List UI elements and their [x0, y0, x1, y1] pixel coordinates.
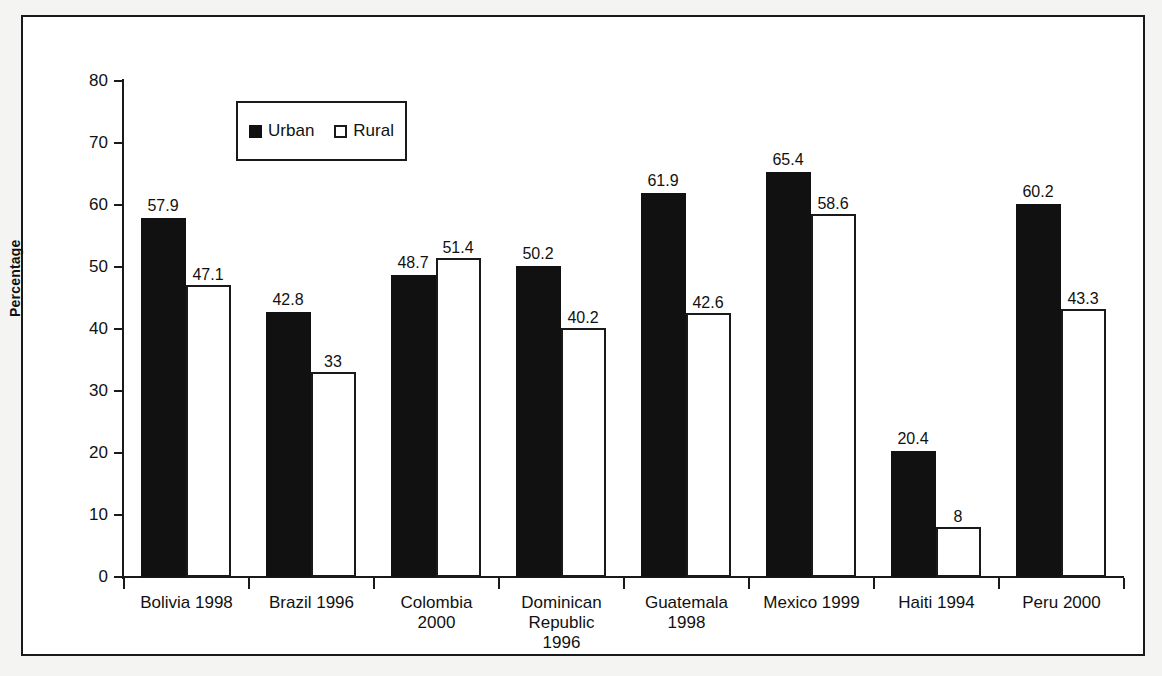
bar-value-label: 48.7	[397, 255, 428, 271]
bar-value-label: 58.6	[817, 196, 848, 212]
y-tick-80	[114, 80, 123, 82]
bar-value-label: 20.4	[897, 431, 928, 447]
chart-frame: Percentage 01020304050607080 57.947.142.…	[21, 15, 1145, 656]
y-tick-20	[114, 452, 123, 454]
legend-entry-rural: Rural	[334, 121, 394, 141]
bar-urban: 65.4	[766, 172, 811, 577]
category-label: Bolivia 1998	[124, 593, 249, 613]
y-tick-0	[114, 576, 123, 578]
bar-rural: 43.3	[1061, 309, 1106, 577]
category-label-line: 1998	[624, 613, 749, 633]
category-label-line: Colombia	[374, 593, 499, 613]
chart-page: Percentage 01020304050607080 57.947.142.…	[0, 0, 1162, 676]
category-label-line: Guatemala	[624, 593, 749, 613]
category-label: DominicanRepublic1996	[499, 593, 624, 653]
bar-rural: 8	[936, 527, 981, 577]
bar-value-label: 50.2	[522, 246, 553, 262]
y-tick-label-50: 50	[63, 257, 108, 277]
bar-value-label: 40.2	[567, 310, 598, 326]
bar-value-label: 43.3	[1067, 291, 1098, 307]
bar-rural: 58.6	[811, 214, 856, 577]
category-label-line: Republic	[499, 613, 624, 633]
category-label: Mexico 1999	[749, 593, 874, 613]
bar-group: 50.240.2	[516, 81, 606, 577]
bar-value-label: 51.4	[442, 240, 473, 256]
x-tick	[498, 578, 500, 589]
x-tick	[623, 578, 625, 589]
bar-rural: 42.6	[686, 313, 731, 577]
bar-rural: 33	[311, 372, 356, 577]
bar-urban: 50.2	[516, 266, 561, 577]
category-label-line: Bolivia 1998	[124, 593, 249, 613]
legend-label-rural: Rural	[353, 121, 394, 141]
bar-urban: 48.7	[391, 275, 436, 577]
bar-rural: 47.1	[186, 285, 231, 577]
bar-value-label: 47.1	[192, 267, 223, 283]
legend-swatch-rural-icon	[334, 125, 347, 138]
bar-value-label: 61.9	[647, 173, 678, 189]
category-label: Colombia2000	[374, 593, 499, 633]
y-tick-label-20: 20	[63, 443, 108, 463]
category-label-line: 1996	[499, 633, 624, 653]
category-label-line: Brazil 1996	[249, 593, 374, 613]
chart-legend: Urban Rural	[236, 101, 407, 161]
legend-entry-urban: Urban	[249, 121, 314, 141]
x-tick	[123, 578, 125, 589]
legend-label-urban: Urban	[268, 121, 314, 141]
bar-value-label: 42.8	[272, 292, 303, 308]
bar-value-label: 33	[324, 354, 342, 370]
category-label-line: Dominican	[499, 593, 624, 613]
x-tick	[748, 578, 750, 589]
x-tick	[248, 578, 250, 589]
legend-swatch-urban-icon	[249, 125, 262, 138]
y-tick-label-0: 0	[63, 567, 108, 587]
bar-value-label: 57.9	[147, 198, 178, 214]
category-label: Haiti 1994	[874, 593, 999, 613]
x-tick	[373, 578, 375, 589]
y-tick-label-60: 60	[63, 195, 108, 215]
category-label-line: 2000	[374, 613, 499, 633]
bar-rural: 40.2	[561, 328, 606, 577]
category-label: Peru 2000	[999, 593, 1124, 613]
bar-group: 60.243.3	[1016, 81, 1106, 577]
y-tick-60	[114, 204, 123, 206]
y-tick-70	[114, 142, 123, 144]
category-label-line: Mexico 1999	[749, 593, 874, 613]
bar-value-label: 65.4	[772, 152, 803, 168]
y-axis-title: Percentage	[7, 240, 23, 317]
bar-group: 20.48	[891, 81, 981, 577]
y-tick-30	[114, 390, 123, 392]
bar-urban: 20.4	[891, 451, 936, 577]
bar-urban: 57.9	[141, 218, 186, 577]
category-label: Guatemala1998	[624, 593, 749, 633]
bar-urban: 61.9	[641, 193, 686, 577]
x-tick	[1123, 578, 1125, 589]
y-tick-label-10: 10	[63, 505, 108, 525]
bar-value-label: 60.2	[1022, 184, 1053, 200]
x-tick	[873, 578, 875, 589]
bar-rural: 51.4	[436, 258, 481, 577]
bar-group: 57.947.1	[141, 81, 231, 577]
y-tick-label-40: 40	[63, 319, 108, 339]
y-tick-label-30: 30	[63, 381, 108, 401]
bar-value-label: 8	[954, 509, 963, 525]
bar-urban: 60.2	[1016, 204, 1061, 577]
y-tick-label-80: 80	[63, 71, 108, 91]
category-label-line: Haiti 1994	[874, 593, 999, 613]
y-tick-10	[114, 514, 123, 516]
x-tick	[998, 578, 1000, 589]
bar-group: 65.458.6	[766, 81, 856, 577]
y-tick-label-70: 70	[63, 133, 108, 153]
y-tick-50	[114, 266, 123, 268]
y-tick-40	[114, 328, 123, 330]
bar-value-label: 42.6	[692, 295, 723, 311]
category-label: Brazil 1996	[249, 593, 374, 613]
bar-urban: 42.8	[266, 312, 311, 577]
bar-group: 61.942.6	[641, 81, 731, 577]
category-label-line: Peru 2000	[999, 593, 1124, 613]
